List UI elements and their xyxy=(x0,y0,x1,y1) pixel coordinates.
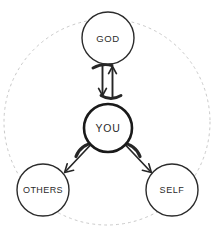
node-god-label: GOD xyxy=(96,33,120,44)
arrow-you-to-others xyxy=(65,143,94,173)
node-you-label: YOU xyxy=(96,122,121,134)
diagram-canvas: GOD YOU OTHERS SELF xyxy=(0,0,214,230)
god-you-bidirectional-connector xyxy=(93,64,121,98)
node-you[interactable]: YOU xyxy=(84,104,132,152)
node-god[interactable]: GOD xyxy=(82,12,134,64)
node-others[interactable]: OTHERS xyxy=(17,164,69,216)
node-others-label: OTHERS xyxy=(23,185,63,195)
node-self[interactable]: SELF xyxy=(146,164,198,216)
arrow-god-to-you xyxy=(93,64,112,95)
relationship-diagram: GOD YOU OTHERS SELF xyxy=(0,0,214,230)
arrow-you-to-self xyxy=(122,143,151,173)
node-self-label: SELF xyxy=(160,185,185,195)
